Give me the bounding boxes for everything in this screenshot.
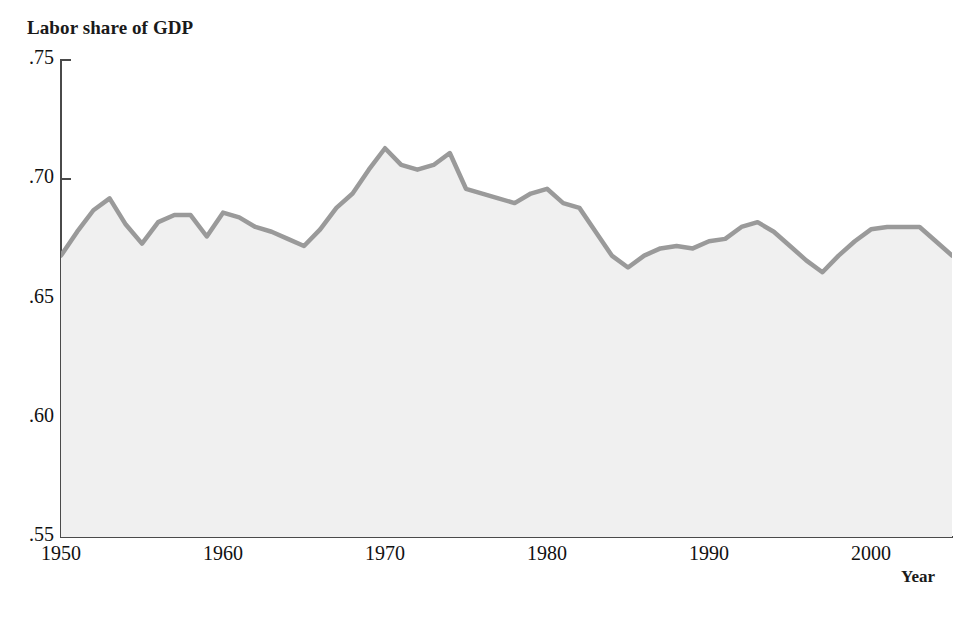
labor-share-area-chart — [61, 60, 952, 537]
chart-figure: Labor share of GDP .75.70.65.60.55 19501… — [0, 0, 973, 618]
x-tick-label-2000: 2000 — [826, 542, 916, 565]
x-tick-label-1970: 1970 — [340, 542, 430, 565]
y-axis-title: Labor share of GDP — [27, 17, 193, 39]
x-tick-label-1950: 1950 — [16, 542, 106, 565]
series-fill-area — [61, 148, 952, 537]
x-tick-label-1960: 1960 — [178, 542, 268, 565]
x-axis-title: Year — [901, 567, 935, 587]
x-tick-label-1980: 1980 — [502, 542, 592, 565]
y-tick-label-75: .75 — [2, 46, 54, 69]
y-tick-label-65: .65 — [2, 285, 54, 308]
x-tick-label-1990: 1990 — [664, 542, 754, 565]
y-tick-label-60: .60 — [2, 404, 54, 427]
y-tick-label-70: .70 — [2, 165, 54, 188]
plot-area — [61, 60, 952, 537]
